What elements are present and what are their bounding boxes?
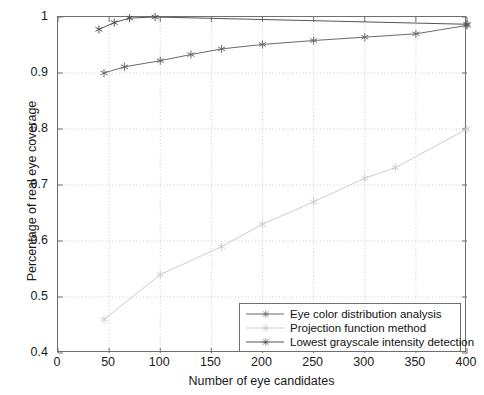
- chart-legend: ✳ Eye color distribution analysis ✳ Proj…: [239, 303, 461, 352]
- legend-item-2: ✳ Lowest grayscale intensity detection: [244, 335, 456, 349]
- x-axis-title: Number of eye candidates: [57, 374, 466, 388]
- legend-label-1: Projection function method: [286, 322, 426, 334]
- x-tick-label: 400: [456, 356, 477, 369]
- legend-marker-icon-1: ✳: [244, 322, 286, 334]
- plot-area: [57, 16, 466, 352]
- series-2: [95, 13, 470, 33]
- legend-item-0: ✳ Eye color distribution analysis: [244, 307, 456, 321]
- legend-label-0: Eye color distribution analysis: [286, 308, 442, 320]
- x-tick-label: 50: [101, 356, 115, 369]
- chart-figure: 0.40.50.60.70.80.91 05010015020025030035…: [0, 0, 484, 395]
- x-tick-label: 350: [404, 356, 425, 369]
- data-series-layer: [58, 17, 465, 351]
- x-tick-label: 200: [251, 356, 272, 369]
- y-axis-title: Percentage of real eye coverage: [25, 61, 39, 321]
- legend-label-2: Lowest grayscale intensity detection: [286, 336, 474, 348]
- series-1: [101, 125, 471, 323]
- x-tick-label: 150: [200, 356, 221, 369]
- x-tick-label: 250: [302, 356, 323, 369]
- legend-marker-icon-0: ✳: [244, 308, 286, 320]
- series-0: [101, 21, 471, 77]
- x-tick-label: 100: [149, 356, 170, 369]
- x-tick-label: 300: [353, 356, 374, 369]
- x-tick-label: 0: [54, 356, 61, 369]
- legend-item-1: ✳ Projection function method: [244, 321, 456, 335]
- legend-marker-icon-2: ✳: [244, 336, 286, 348]
